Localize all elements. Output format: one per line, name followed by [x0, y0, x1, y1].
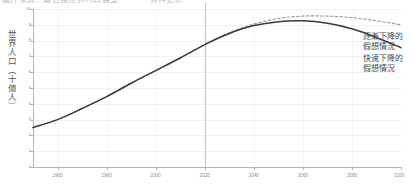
- y-tick-label: 2: [20, 133, 31, 137]
- curves-svg: [33, 9, 401, 168]
- y-tick-label: 10: [20, 7, 31, 11]
- x-tick-label: 1980: [101, 173, 111, 178]
- y-tick-label: 7: [20, 54, 31, 58]
- annotation-gradual-decline: 逐漸下降的 假想情況: [363, 32, 403, 52]
- plot-area: 0 1 2 3 4 5 6 7 8 9 10 1960 1980 2000 20…: [33, 9, 401, 168]
- annotation-gradual-line1: 逐漸下降的: [363, 32, 403, 42]
- annotation-rapid-line1: 快速下降的: [363, 54, 403, 64]
- y-axis-caption: 世界人口（十億人）: [2, 30, 15, 111]
- y-tick-label: 5: [20, 86, 31, 90]
- chart-root: 圖片來源：聯合國世界人口展望 資料更新 世界人口（十億人）: [0, 0, 412, 188]
- y-tick-label: 6: [20, 70, 31, 74]
- y-tick-label: 3: [20, 117, 31, 121]
- x-tick-label: 2060: [298, 173, 308, 178]
- cropped-title-strip: 圖片來源：聯合國世界人口展望 資料更新: [0, 0, 412, 7]
- annotation-rapid-decline: 快速下降的 假想情況: [363, 54, 403, 74]
- x-tick-label: 2100: [394, 173, 404, 178]
- x-tick: [401, 167, 402, 170]
- annotation-gradual-line2: 假想情況: [363, 42, 403, 52]
- title-fragment-left: 圖片來源：聯合國世界人口展望: [2, 0, 118, 4]
- x-tick-label: 2080: [347, 173, 357, 178]
- y-tick-label: 0: [20, 165, 31, 169]
- annotation-rapid-line2: 假想情況: [363, 64, 403, 74]
- y-tick-label: 4: [20, 102, 31, 106]
- curve-rapid-decline: [33, 21, 401, 128]
- y-tick-label: 9: [20, 23, 31, 27]
- y-tick-label: 8: [20, 38, 31, 42]
- title-fragment-right: 資料更新: [150, 0, 182, 4]
- curve-gradual-decline: [33, 16, 401, 128]
- x-tick-label: 2040: [249, 173, 259, 178]
- y-tick-label: 1: [20, 149, 31, 153]
- x-tick-label: 1960: [52, 173, 62, 178]
- x-tick-label: 2020: [200, 173, 210, 178]
- x-tick-label: 2000: [151, 173, 161, 178]
